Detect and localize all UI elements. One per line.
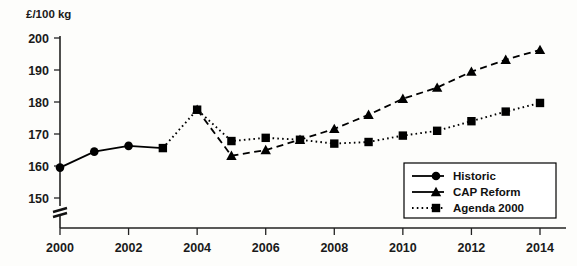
x-tick-label: 2002: [115, 241, 143, 255]
data-point-agenda-2000: [227, 137, 235, 145]
data-point-cap-reform: [432, 82, 442, 91]
data-point-agenda-2000: [193, 105, 201, 113]
data-point-cap-reform: [329, 124, 339, 133]
x-tick-label: 2006: [252, 241, 280, 255]
data-point-agenda-2000: [399, 131, 407, 139]
line-chart: £/100 kg15016017018019020020002002200420…: [0, 0, 577, 266]
x-tick-label: 2014: [526, 241, 554, 255]
y-tick-label: 170: [28, 128, 49, 142]
legend-label-agenda-2000: Agenda 2000: [453, 202, 524, 214]
data-point-historic: [124, 142, 133, 151]
x-tick-label: 2012: [458, 241, 486, 255]
data-point-agenda-2000: [364, 138, 372, 146]
data-point-agenda-2000: [330, 139, 338, 147]
x-tick-label: 2004: [183, 241, 211, 255]
series-line-agenda-2000: [163, 103, 540, 148]
data-point-agenda-2000: [467, 117, 475, 125]
data-point-agenda-2000: [433, 127, 441, 135]
x-tick-label: 2010: [389, 241, 417, 255]
axis-break-marker: [53, 208, 67, 217]
legend-label-historic: Historic: [453, 170, 496, 182]
x-tick-label: 2008: [320, 241, 348, 255]
x-tick-label: 2000: [46, 241, 74, 255]
data-point-agenda-2000: [536, 99, 544, 107]
data-point-agenda-2000: [296, 136, 304, 144]
chart-figure: £/100 kg15016017018019020020002002200420…: [0, 0, 577, 266]
data-point-cap-reform: [363, 110, 373, 119]
data-point-agenda-2000: [159, 144, 167, 152]
y-tick-label: 160: [28, 160, 49, 174]
legend-label-cap-reform: CAP Reform: [453, 186, 521, 198]
data-point-cap-reform: [501, 55, 511, 64]
data-point-cap-reform: [535, 45, 545, 54]
y-axis-title: £/100 kg: [26, 8, 71, 20]
data-point-agenda-2000: [262, 134, 270, 142]
data-point-historic: [90, 147, 99, 156]
data-point-historic: [56, 163, 65, 172]
y-tick-label: 180: [28, 96, 49, 110]
series-connector: [129, 146, 163, 148]
data-point-agenda-2000: [502, 107, 510, 115]
y-tick-label: 190: [28, 64, 49, 78]
y-tick-label: 200: [28, 32, 49, 46]
y-tick-label: 150: [28, 192, 49, 206]
